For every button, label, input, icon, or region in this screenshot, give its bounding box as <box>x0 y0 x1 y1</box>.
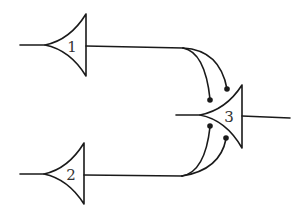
neuron-3-soma <box>200 85 242 148</box>
synapse-2b <box>223 135 229 141</box>
synapse-1a <box>207 97 213 103</box>
neuron-2: 2 <box>20 143 84 204</box>
axon-2-to-3 <box>84 123 229 176</box>
synapse-2a <box>207 123 213 129</box>
axon-2-trunk <box>84 175 182 176</box>
neuron-3: 3 <box>176 85 290 148</box>
neuron-2-soma <box>44 143 84 204</box>
neural-circuit-diagram: 1 2 3 <box>0 0 308 219</box>
neuron-3-axon <box>242 116 290 118</box>
neuron-1-soma <box>45 14 86 76</box>
axon-1-to-3 <box>86 46 230 103</box>
neuron-2-label: 2 <box>66 166 76 184</box>
axon-1-branch-b <box>183 48 227 89</box>
neuron-1: 1 <box>20 14 86 76</box>
neuron-3-label: 3 <box>224 108 234 126</box>
axon-2-branch-b <box>182 139 226 176</box>
neuron-1-label: 1 <box>67 38 77 56</box>
axon-1-branch-a <box>183 48 210 99</box>
synapse-1b <box>224 86 230 92</box>
axon-1-trunk <box>86 46 183 48</box>
